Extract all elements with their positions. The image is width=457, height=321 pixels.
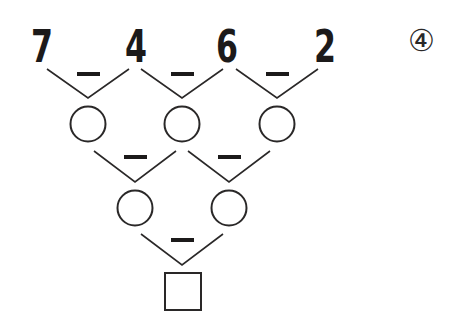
minus-icon [77,72,100,76]
minus-icon [218,155,241,159]
answer-circle-row2-3[interactable] [260,107,295,142]
minus-icon [124,155,147,159]
top-number-1: 7 [31,21,53,72]
top-number-2: 4 [125,21,147,72]
answer-circle-row3-2[interactable] [212,191,247,226]
answer-circle-row2-1[interactable] [71,107,106,142]
problem-number-label: ④ [408,23,435,58]
top-number-4: 2 [314,21,336,72]
connector-lines [47,69,318,265]
top-number-3: 6 [216,21,238,72]
answer-circle-row3-1[interactable] [118,191,153,226]
subtraction-pyramid-diagram: 7 4 6 2 ④ [0,0,457,321]
final-answer-box[interactable] [165,273,201,310]
minus-icon [171,238,194,242]
answer-circle-row2-2[interactable] [165,107,200,142]
minus-icon [266,72,289,76]
minus-icon [171,72,194,76]
